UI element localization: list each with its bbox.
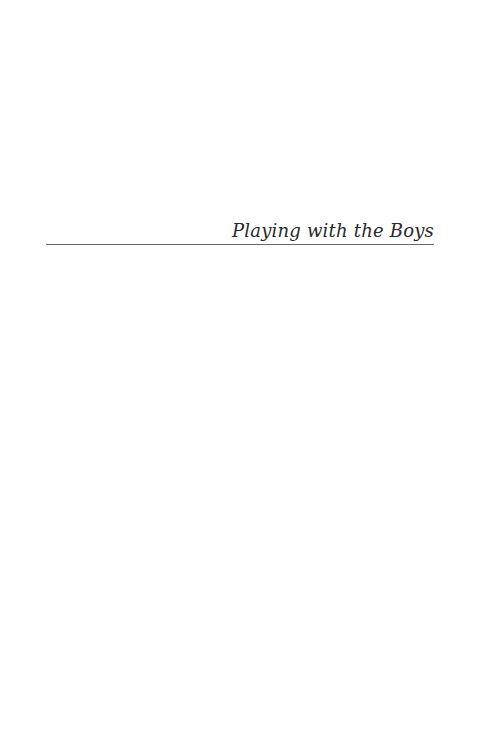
title-block: Playing with the Boys bbox=[46, 218, 434, 246]
half-title-page: Playing with the Boys bbox=[0, 0, 480, 751]
title-rule bbox=[46, 244, 434, 245]
book-title: Playing with the Boys bbox=[232, 220, 434, 242]
